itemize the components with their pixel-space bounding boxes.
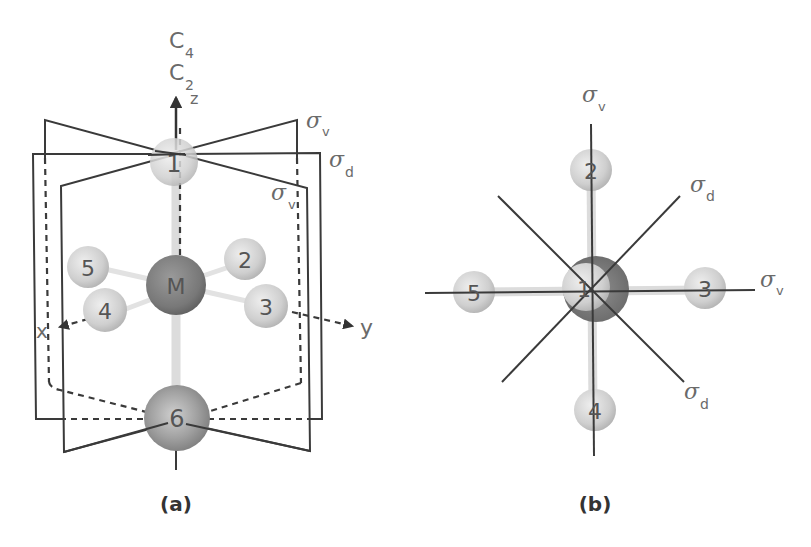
- atom-1-a: 1: [150, 138, 198, 186]
- c2-label: C: [169, 60, 184, 85]
- svg-text:5: 5: [81, 256, 95, 281]
- z-label: z: [190, 89, 198, 108]
- svg-text:σ: σ: [582, 82, 598, 107]
- caption-a: (a): [160, 492, 192, 516]
- svg-text:d: d: [706, 188, 715, 204]
- svg-text:σ: σ: [271, 180, 287, 205]
- label-sigma-v-vertical: σ v: [582, 82, 606, 114]
- svg-text:d: d: [345, 164, 354, 180]
- panel-b: 2 3 4 5 1 σ v σ d σ v σ d (b): [425, 82, 784, 516]
- atom-M: M: [146, 255, 206, 315]
- c4-subscript: 4: [185, 45, 194, 61]
- x-axis-arrow: [60, 319, 88, 327]
- svg-text:2: 2: [238, 248, 252, 273]
- c4-label: C: [169, 28, 184, 53]
- label-sigma-v-horizontal: σ v: [760, 267, 784, 298]
- atom-6-a: 6: [144, 385, 210, 451]
- symmetry-diagram: 1 5 2 M 4 3 6: [0, 0, 811, 547]
- svg-text:v: v: [776, 283, 784, 298]
- svg-text:σ: σ: [306, 108, 322, 133]
- atom-3-a: 3: [244, 284, 288, 328]
- atom-1-b-label: 1: [577, 277, 591, 302]
- atom-4-b-label: 4: [588, 399, 602, 424]
- atom-5-a: 5: [67, 246, 109, 288]
- svg-text:v: v: [288, 197, 296, 212]
- svg-text:v: v: [598, 99, 606, 114]
- svg-text:M: M: [167, 274, 186, 299]
- label-sigma-d-lower: σ d: [684, 379, 709, 412]
- caption-b: (b): [579, 492, 612, 516]
- svg-text:3: 3: [259, 295, 273, 320]
- label-sigma-d-upper: σ d: [690, 172, 715, 204]
- label-sigma-d: σ d: [329, 147, 354, 180]
- y-label: y: [360, 315, 373, 340]
- svg-text:v: v: [322, 124, 330, 139]
- atom-3-b-label: 3: [698, 277, 712, 302]
- atom-5-b-label: 5: [467, 281, 481, 306]
- x-label: x: [36, 319, 48, 343]
- svg-text:4: 4: [98, 299, 112, 324]
- atom-4-a: 4: [83, 288, 127, 332]
- svg-text:d: d: [700, 396, 709, 412]
- atom-2-b-label: 2: [584, 159, 598, 184]
- svg-text:6: 6: [169, 405, 184, 433]
- svg-text:σ: σ: [684, 379, 700, 404]
- svg-text:σ: σ: [329, 147, 345, 172]
- svg-text:σ: σ: [690, 172, 706, 197]
- svg-text:σ: σ: [760, 267, 776, 292]
- label-sigma-v-top: σ v: [306, 108, 330, 139]
- panel-a: 1 5 2 M 4 3 6: [33, 28, 373, 516]
- atom-2-a: 2: [224, 238, 266, 280]
